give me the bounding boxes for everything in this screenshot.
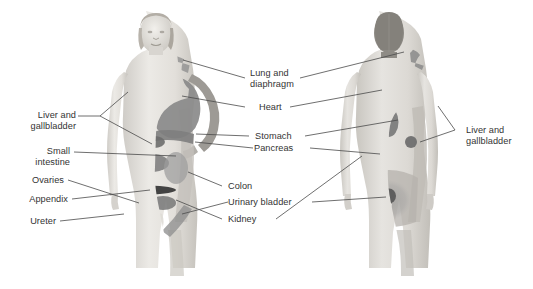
label-colon: Colon [228, 181, 268, 192]
label-ureter: Ureter [8, 216, 56, 227]
posterior-body [340, 11, 438, 276]
anterior-body [107, 11, 219, 276]
label-kidney: Kidney [228, 214, 272, 225]
label-stomach: Stomach [255, 131, 303, 142]
label-urinary-bladder: Urinary bladder [228, 197, 308, 208]
referred-pain-figure: Liver and gallbladder Small intestine Ov… [0, 0, 533, 289]
label-pancreas: Pancreas [254, 143, 306, 154]
label-liver-gallbladder-left: Liver and gallbladder [8, 110, 76, 131]
label-ovaries: Ovaries [8, 175, 64, 186]
label-appendix: Appendix [8, 194, 68, 205]
region-liver-gallbladder-post [405, 136, 417, 148]
label-lung-diaphragm: Lung and diaphragm [250, 68, 308, 89]
label-liver-gallbladder-right: Liver and gallbladder [466, 125, 532, 146]
label-small-intestine: Small intestine [8, 146, 70, 167]
label-heart: Heart [259, 102, 299, 113]
region-colon-right [164, 152, 188, 184]
